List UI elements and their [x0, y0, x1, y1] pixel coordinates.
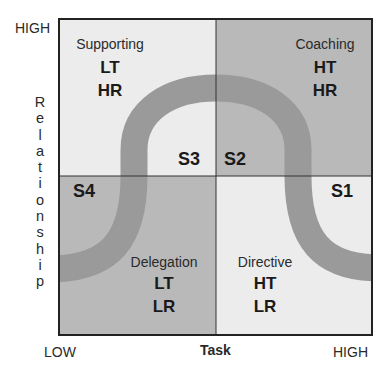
quadrant-name-delegation: Delegation: [131, 254, 198, 270]
quadrant-code-lt: LT: [154, 274, 174, 293]
quadrant-code-hr: HR: [98, 81, 123, 100]
x-axis-low-label: LOW: [44, 344, 76, 360]
quadrant-name-coaching: Coaching: [295, 36, 354, 52]
x-axis-high-label: HIGH: [333, 344, 368, 360]
style-label-s4: S4: [73, 181, 95, 201]
quadrant-code-hr: HR: [313, 81, 338, 100]
quadrant-code-lr: LR: [153, 297, 176, 316]
quadrant-diagram: Supporting LT HR Coaching HT HR Delegati…: [0, 0, 392, 378]
style-label-s2: S2: [224, 149, 246, 169]
quadrant-name-supporting: Supporting: [76, 36, 144, 52]
quadrant-name-directive: Directive: [238, 254, 293, 270]
quadrant-code-ht: HT: [254, 274, 277, 293]
x-axis-title: Task: [200, 342, 231, 358]
style-label-s1: S1: [331, 181, 353, 201]
quadrant-code-lr: LR: [254, 297, 277, 316]
quadrant-code-ht: HT: [314, 58, 337, 77]
style-label-s3: S3: [178, 149, 200, 169]
quadrant-code-lt: LT: [100, 58, 120, 77]
